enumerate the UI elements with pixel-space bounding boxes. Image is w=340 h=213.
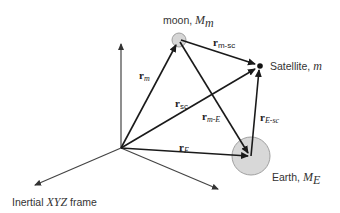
earth-label: Earth, ME bbox=[272, 170, 320, 188]
moon-body bbox=[172, 33, 186, 47]
inertial-axes bbox=[35, 44, 218, 189]
satellite-point bbox=[257, 63, 263, 69]
label-r-m: rm bbox=[139, 69, 150, 83]
label-r-sc: rsc bbox=[175, 97, 188, 111]
satellite-label: Satellite, m bbox=[270, 59, 322, 74]
label-r-E-sc: rE-sc bbox=[260, 111, 279, 125]
moon-label: moon, Mm bbox=[163, 13, 214, 31]
position-vectors bbox=[121, 40, 259, 156]
label-r-m-E: rm-E bbox=[202, 110, 220, 124]
label-r-m-sc: rm-sc bbox=[213, 36, 235, 50]
axis-x bbox=[35, 148, 121, 185]
label-r-E: rE bbox=[179, 141, 189, 155]
axis-y bbox=[121, 148, 218, 189]
inertial-frame-label: Inertial XYZ frame bbox=[12, 195, 97, 210]
